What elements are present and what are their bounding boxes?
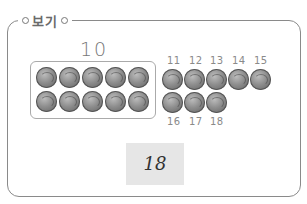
yarn-ball-icon: [128, 67, 149, 88]
example-header: 보기: [18, 10, 72, 30]
count-label: 11: [167, 55, 181, 66]
count-label: 15: [254, 55, 268, 66]
yarn-ball-icon: [206, 69, 227, 90]
yarn-ball-icon: [162, 69, 183, 90]
yarn-ball-icon: [59, 67, 80, 88]
count-label: 14: [232, 55, 246, 66]
count-label: 12: [189, 55, 203, 66]
yarn-ball-icon: [128, 91, 149, 112]
yarn-ball-icon: [184, 69, 205, 90]
ten-group-label: 10: [80, 38, 108, 60]
example-title: 보기: [32, 11, 58, 30]
count-label: 18: [210, 116, 224, 127]
yarn-ball-icon: [228, 69, 249, 90]
yarn-ball-icon: [162, 92, 183, 113]
yarn-ball-icon: [36, 67, 57, 88]
count-label: 13: [210, 55, 224, 66]
count-label: 16: [167, 116, 181, 127]
answer-box: 18: [126, 143, 184, 185]
yarn-ball-icon: [105, 91, 126, 112]
yarn-ball-icon: [206, 92, 227, 113]
yarn-ball-icon: [36, 91, 57, 112]
yarn-ball-icon: [184, 92, 205, 113]
yarn-ball-icon: [59, 91, 80, 112]
circle-bullet-icon: [22, 17, 29, 24]
count-label: 17: [189, 116, 203, 127]
yarn-ball-icon: [82, 91, 103, 112]
answer-value: 18: [126, 143, 184, 185]
yarn-ball-icon: [82, 67, 103, 88]
yarn-ball-icon: [105, 67, 126, 88]
yarn-ball-icon: [250, 69, 271, 90]
circle-bullet-icon: [61, 17, 68, 24]
